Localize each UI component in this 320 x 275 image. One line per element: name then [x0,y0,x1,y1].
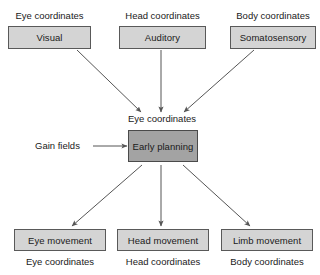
node-somatosensory-label: Somatosensory [240,32,307,43]
caption-limb-movement-coordinates: Body coordinates [221,256,313,267]
node-head-movement: Head movement [117,229,209,251]
caption-head-movement-coordinates: Head coordinates [117,256,209,267]
label-gain-fields: Gain fields [35,140,80,151]
node-visual-label: Visual [36,32,62,43]
arrow-somatosensory-to-planning [184,50,254,112]
node-eye-movement-label: Eye movement [28,235,92,246]
caption-somatosensory-input: Body coordinates [230,10,316,21]
caption-eye-movement-coordinates: Eye coordinates [14,256,106,267]
node-limb-movement-label: Limb movement [233,235,301,246]
arrow-planning-to-limb-movement [183,165,250,226]
node-visual: Visual [8,26,91,49]
caption-visual-input: Eye coordinates [8,10,91,21]
node-limb-movement: Limb movement [221,229,313,251]
arrow-planning-to-eye-movement [72,165,142,226]
caption-auditory-input: Head coordinates [119,10,206,21]
caption-planning-coordinates: Eye coordinates [118,113,206,124]
flow-diagram: Eye coordinates Visual Head coordinates … [0,0,320,275]
node-early-planning: Early planning [128,130,198,162]
arrow-visual-to-planning [77,50,141,112]
node-auditory-label: Auditory [145,32,180,43]
node-somatosensory: Somatosensory [230,26,316,49]
node-eye-movement: Eye movement [14,229,106,251]
node-head-movement-label: Head movement [128,235,198,246]
node-auditory: Auditory [119,26,206,49]
node-early-planning-label: Early planning [133,141,194,152]
